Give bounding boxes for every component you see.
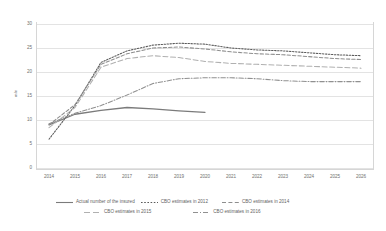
legend-swatch-actual [56,200,73,205]
legend-row-2: CBO estimates in 2015 CBO estimates in 2… [56,207,342,217]
legend-swatch-cbo-2014 [222,200,239,205]
legend-item-cbo-2014[interactable]: CBO estimates in 2014 [222,200,289,205]
series-line-3 [49,56,361,128]
legend-item-actual[interactable]: Actual number of the insured [56,200,135,205]
series-line-4 [49,78,361,124]
legend-row-1: Actual number of the insured CBO estimat… [56,197,342,207]
legend-label-cbo-2012: CBO estimates in 2012 [161,200,208,205]
legend-label-cbo-2014: CBO estimates in 2014 [242,200,289,205]
legend-swatch-cbo-2016 [193,210,210,215]
legend-label-cbo-2016: CBO estimates in 2016 [213,210,260,215]
chart-legend: Actual number of the insured CBO estimat… [56,197,342,217]
legend-item-cbo-2015[interactable]: CBO estimates in 2015 [84,210,151,215]
chart-container: 30 25 20 15 10 5 0 mln 2014 2015 2016 20… [0,0,386,231]
legend-item-cbo-2016[interactable]: CBO estimates in 2016 [193,210,260,215]
legend-label-actual: Actual number of the insured [76,200,135,205]
legend-item-cbo-2012[interactable]: CBO estimates in 2012 [141,200,208,205]
legend-swatch-cbo-2015 [84,210,101,215]
series-line-2 [49,47,361,125]
series-line-0 [49,108,205,125]
series-line-1 [49,43,361,139]
legend-swatch-cbo-2012 [141,200,158,205]
legend-label-cbo-2015: CBO estimates in 2015 [104,210,151,215]
